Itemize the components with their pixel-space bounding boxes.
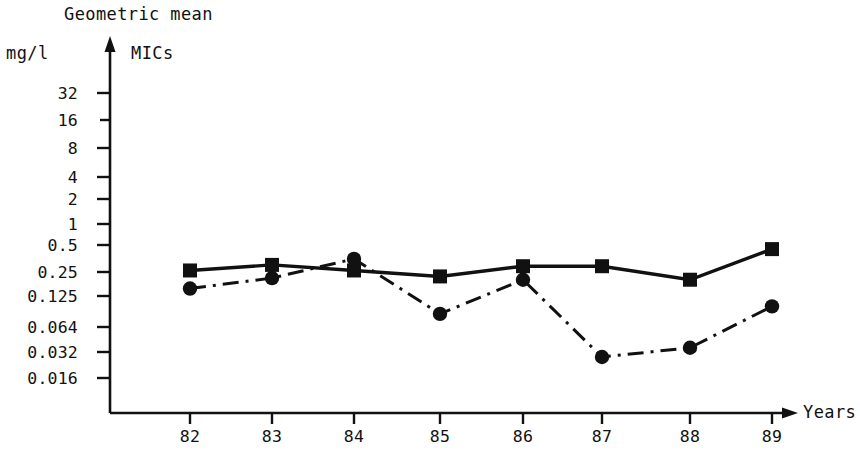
data-point-marker [683,341,697,355]
data-point-marker [433,269,447,283]
y-axis-ticks [97,93,110,378]
chart-figure: Geometric mean mg/l MICs Years 32 16 8 4… [0,0,860,470]
data-point-marker [433,307,447,321]
chart-canvas [0,0,860,470]
data-point-marker [516,259,530,273]
data-point-marker [516,273,530,287]
x-axis-ticks [190,413,772,424]
data-point-marker [595,259,609,273]
data-point-marker [183,281,197,295]
data-point-marker [595,350,609,364]
data-point-marker [265,258,279,272]
up-arrow-icon [105,36,116,52]
data-point-marker [347,252,361,266]
right-arrow-icon [782,408,798,419]
x-axis [110,408,798,419]
data-point-marker [265,271,279,285]
data-point-marker [683,273,697,287]
data-point-marker [765,242,779,256]
data-point-marker [765,299,779,313]
data-point-marker [183,263,197,277]
